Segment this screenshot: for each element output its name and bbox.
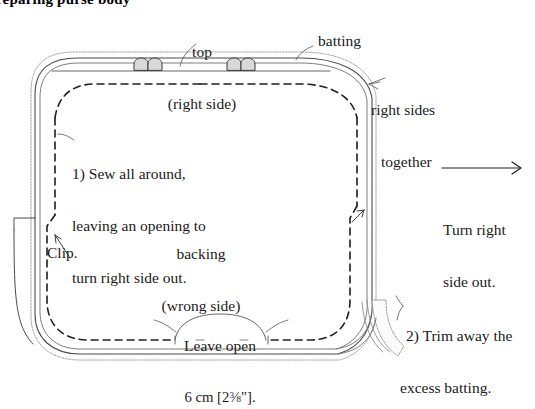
- label-right-sides-line2: together: [371, 153, 435, 170]
- label-right-sides-line1: right sides: [371, 101, 435, 118]
- measure-numerator: 3: [229, 390, 234, 400]
- turn-line2: side out.: [443, 273, 506, 290]
- measure-cm: 6 cm [2: [184, 389, 229, 405]
- label-turn-right-side-out: Turn right side out.: [443, 186, 506, 308]
- step1-line1: 1) Sew all around,: [72, 165, 206, 182]
- step2-line1: 2) Trim away the: [406, 327, 512, 344]
- label-leave-open: Leave open 6 cm [23⁄8"].: [155, 302, 285, 409]
- measure-tail: "].: [241, 389, 256, 405]
- backing-line1: backing: [136, 245, 266, 262]
- label-clip: Clip.: [47, 244, 78, 261]
- label-top-line2: (right side): [143, 95, 261, 112]
- turn-arrow-icon: [442, 162, 521, 174]
- bottom-right-curves: [336, 316, 376, 354]
- label-batting: batting: [318, 32, 361, 49]
- label-step-2: 2) Trim away the excess batting.: [406, 292, 512, 409]
- step2-line2: excess batting.: [400, 379, 512, 396]
- label-right-sides-together: right sides together: [371, 66, 435, 188]
- label-top-line1: top: [143, 43, 261, 60]
- label-top-right-side: top (right side): [143, 8, 261, 130]
- leave-open-measurement: 6 cm [23⁄8"].: [155, 389, 285, 405]
- leave-open-line1: Leave open: [155, 337, 285, 354]
- turn-line1: Turn right: [443, 221, 506, 238]
